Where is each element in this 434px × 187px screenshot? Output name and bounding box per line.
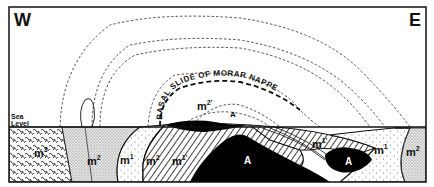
- east-label: E: [409, 10, 421, 30]
- cross-section-diagram: W E Sea Level BASAL SLIDE OF MORAR NAPPE…: [0, 0, 434, 187]
- sea-level-label-line2: Level: [11, 120, 29, 127]
- label-m2-prime-upper: m2': [197, 99, 213, 112]
- label-A-core-right: A: [345, 156, 352, 167]
- label-A-core-left: A: [244, 155, 251, 166]
- west-label: W: [14, 10, 31, 30]
- basal-slide-line: [160, 81, 300, 126]
- label-A-upper: A: [230, 110, 236, 119]
- sea-level-label-line1: Sea: [11, 113, 24, 120]
